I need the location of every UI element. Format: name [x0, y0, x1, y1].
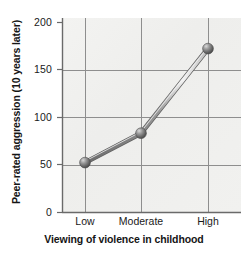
y-tick-label-150: 150: [18, 63, 52, 75]
x-tick-label-moderate: Moderate: [105, 215, 177, 227]
data-point-low: [80, 157, 91, 168]
y-tick-label-200: 200: [18, 16, 52, 28]
y-tick-label-0: 0: [18, 206, 52, 218]
x-tick-label-high: High: [172, 215, 244, 227]
y-axis-ticks: [57, 23, 62, 213]
y-tick-label-50: 50: [18, 158, 52, 170]
data-point-high: [203, 43, 214, 54]
chart-figure: Peer-rated aggression (10 years later) 2…: [0, 0, 248, 254]
y-tick-label-100: 100: [18, 111, 52, 123]
data-point-moderate: [136, 128, 147, 139]
plot-panel: [62, 18, 241, 212]
x-axis-title: Viewing of violence in childhood: [0, 233, 248, 245]
